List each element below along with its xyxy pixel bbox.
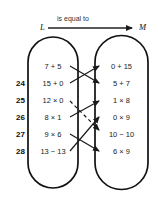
left-item-expression: 8 × 1: [28, 113, 78, 122]
left-item-expression: 13 − 13: [28, 147, 78, 156]
right-set-label: M: [139, 22, 146, 32]
left-item-expression: 7 + 5: [28, 62, 78, 71]
right-item-expression: 10 − 10: [95, 130, 148, 139]
right-item-expression: 0 + 15: [95, 62, 148, 71]
right-item-expression: 1 × 8: [95, 96, 148, 105]
left-item-expression: 9 × 6: [28, 130, 78, 139]
item-number-25: 25: [5, 96, 25, 105]
item-number-27: 27: [5, 130, 25, 139]
item-number-24: 24: [5, 79, 25, 88]
left-item-expression: 12 × 0: [28, 96, 78, 105]
right-item-expression: 5 + 7: [95, 79, 148, 88]
left-set-label: L: [40, 22, 45, 32]
right-item-expression: 6 × 9: [95, 147, 148, 156]
right-item-expression: 0 × 9: [95, 113, 148, 122]
left-item-expression: 15 + 0: [28, 79, 78, 88]
mapping-diagram: is equal to L M 24 25 26 27 28 7 + 5 15 …: [0, 0, 158, 198]
item-number-26: 26: [5, 113, 25, 122]
item-number-28: 28: [5, 147, 25, 156]
relation-caption: is equal to: [57, 15, 89, 22]
